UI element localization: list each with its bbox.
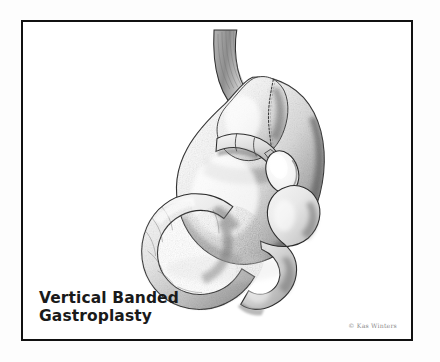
copyright-credit: © Kas Winters [348, 322, 397, 329]
anatomical-illustration [23, 22, 411, 339]
illustration-frame: Vertical Banded Gastroplasty © Kas Winte… [21, 20, 413, 341]
drop-shadow [167, 255, 286, 283]
illustration-page: Vertical Banded Gastroplasty © Kas Winte… [0, 0, 440, 362]
